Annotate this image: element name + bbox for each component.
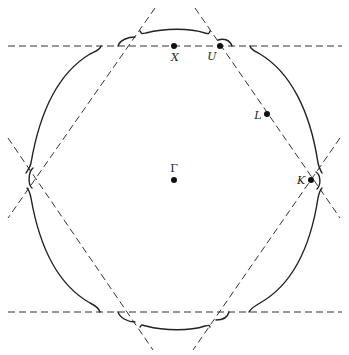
l-label: L [253, 109, 261, 122]
left-side-lobe [29, 168, 33, 188]
upper-left-arc [26, 46, 101, 173]
u-point-dot [217, 43, 223, 49]
lower-left-diagonal [8, 138, 153, 350]
top-left-lobe [118, 37, 135, 46]
right-side-lobe [316, 172, 320, 189]
symmetry-points: Γ X U L K [170, 43, 314, 187]
lower-right-arc [249, 188, 322, 312]
gamma-point-dot [171, 177, 177, 183]
gamma-label: Γ [170, 162, 178, 175]
k-label: K [296, 174, 306, 187]
top-neck-arc [140, 29, 210, 33]
lower-right-diagonal [193, 138, 340, 350]
l-point-dot [264, 111, 270, 117]
fermi-surface-diagram: Γ X U L K [0, 0, 349, 355]
u-label: U [207, 50, 217, 63]
k-point-dot [308, 177, 314, 183]
x-label: X [170, 51, 180, 64]
lower-left-arc [27, 188, 100, 312]
x-point-dot [171, 43, 177, 49]
diagram-canvas: Γ X U L K [0, 0, 349, 355]
bottom-neck-arc [140, 325, 210, 330]
